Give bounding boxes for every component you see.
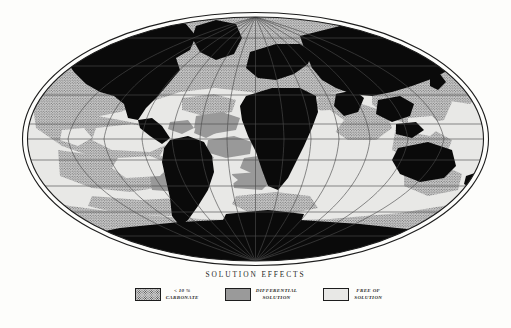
legend-carbonate-line1: < 10 % [174,288,191,293]
map-title: SOLUTION EFFECTS [0,266,511,279]
legend-item-free: FREE OF SOLUTION [323,288,382,301]
legend-item-differential: DIFFERENTIAL SOLUTION [225,288,297,301]
legend-label-differential: DIFFERENTIAL SOLUTION [256,288,297,301]
map-figure: SOLUTION EFFECTS < 10 % CARBONATE DIFFER… [0,0,511,328]
legend-swatch-free-icon [323,288,349,301]
legend-differential-line2: SOLUTION [256,295,297,302]
world-map-canvas [0,0,511,272]
legend-block: SOLUTION EFFECTS < 10 % CARBONATE DIFFER… [0,266,511,328]
world-map [0,0,511,272]
legend-label-carbonate: < 10 % CARBONATE [166,288,199,301]
legend: < 10 % CARBONATE DIFFERENTIAL SOLUTION F… [0,288,511,301]
legend-differential-line1: DIFFERENTIAL [256,288,297,293]
legend-swatch-differential-icon [225,288,251,301]
legend-free-line2: SOLUTION [354,295,382,302]
legend-label-free: FREE OF SOLUTION [354,288,382,301]
legend-carbonate-line2: CARBONATE [166,295,199,302]
legend-item-carbonate: < 10 % CARBONATE [135,288,199,301]
legend-swatch-carbonate-icon [135,288,161,301]
legend-free-line1: FREE OF [356,288,380,293]
